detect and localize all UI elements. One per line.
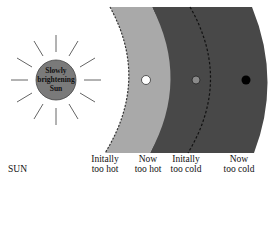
planet-outer — [242, 76, 251, 85]
label-now-too-hot-line2: too hot — [130, 164, 166, 174]
label-initially-too-cold: Initally too cold — [166, 154, 206, 174]
label-sun: SUN — [8, 164, 27, 174]
label-now-too-hot: Now too hot — [130, 154, 166, 174]
label-now-too-cold-line2: too cold — [218, 164, 260, 174]
sun-label-line2: brightening — [37, 75, 75, 84]
label-initially-too-hot-line2: too hot — [85, 164, 125, 174]
planet-inner — [142, 76, 151, 85]
label-initially-too-cold-line1: Initally — [166, 154, 206, 164]
label-initially-too-hot: Initally too hot — [85, 154, 125, 174]
sun-label-line3: Sun — [50, 84, 63, 93]
sun-label-line1: Slowly — [45, 66, 67, 75]
label-initially-too-hot-line1: Initally — [85, 154, 125, 164]
label-now-too-cold: Now too cold — [218, 154, 260, 174]
label-now-too-cold-line1: Now — [218, 154, 260, 164]
label-now-too-hot-line1: Now — [130, 154, 166, 164]
label-initially-too-cold-line2: too cold — [166, 164, 206, 174]
planet-middle — [192, 76, 200, 84]
